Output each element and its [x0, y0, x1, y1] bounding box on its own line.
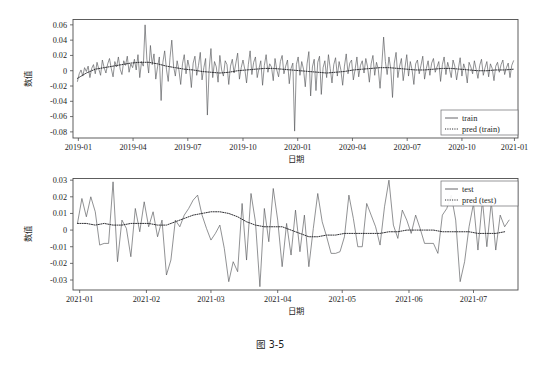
- x-tick-label: 2021-02: [133, 295, 160, 304]
- x-axis-title: 日期: [288, 154, 304, 164]
- y-tick-label: 0.06: [53, 21, 67, 30]
- y-tick-label: 0.01: [53, 209, 67, 218]
- x-tick-label: 2020-01: [284, 143, 311, 152]
- x-tick-label: 2019-10: [229, 143, 256, 152]
- y-tick-label: 0: [63, 226, 67, 235]
- test-chart-panel: 0.030.020.010-0.01-0.02-0.032021-012021-…: [23, 176, 518, 316]
- y-tick-label: -0.02: [50, 259, 67, 268]
- legend-label: pred (test): [462, 196, 496, 205]
- legend-label: pred (train): [462, 125, 500, 134]
- y-axis-title: 数值: [23, 225, 33, 242]
- y-tick-label: 0.04: [53, 36, 67, 45]
- legend-label: test: [462, 185, 474, 194]
- x-tick-label: 2019-01: [65, 143, 92, 152]
- y-tick-label: 0.02: [53, 193, 67, 202]
- x-tick-label: 2021-01: [501, 143, 528, 152]
- y-tick-label: -0.06: [50, 112, 67, 121]
- legend-label: train: [462, 114, 478, 123]
- y-axis-title: 数值: [23, 70, 33, 87]
- y-tick-label: -0.02: [50, 82, 67, 91]
- y-tick-label: 0: [63, 67, 67, 76]
- y-tick-label: -0.04: [50, 97, 67, 106]
- train-chart-panel: 0.060.040.020-0.02-0.04-0.06-0.082019-01…: [23, 20, 528, 165]
- x-axis-title: 日期: [288, 306, 304, 316]
- y-tick-label: 0.02: [53, 51, 67, 60]
- y-tick-label: -0.08: [50, 128, 67, 137]
- figure-caption: 图 3-5: [256, 339, 285, 350]
- x-tick-label: 2021-05: [329, 295, 356, 304]
- x-tick-label: 2019-04: [119, 143, 146, 152]
- y-tick-label: -0.03: [50, 276, 67, 285]
- x-tick-label: 2020-10: [448, 143, 475, 152]
- x-tick-label: 2020-07: [394, 143, 421, 152]
- x-tick-label: 2021-06: [395, 295, 422, 304]
- x-tick-label: 2021-07: [460, 295, 487, 304]
- x-tick-label: 2019-07: [174, 143, 201, 152]
- y-tick-label: 0.03: [53, 176, 67, 185]
- x-tick-label: 2020-04: [339, 143, 366, 152]
- figure-svg: 0.060.040.020-0.02-0.04-0.06-0.082019-01…: [0, 0, 540, 367]
- figure-container: 0.060.040.020-0.02-0.04-0.06-0.082019-01…: [0, 0, 540, 367]
- y-tick-label: -0.01: [50, 243, 67, 252]
- x-tick-label: 2021-04: [264, 295, 291, 304]
- x-tick-label: 2021-01: [66, 295, 93, 304]
- x-tick-label: 2021-03: [197, 295, 224, 304]
